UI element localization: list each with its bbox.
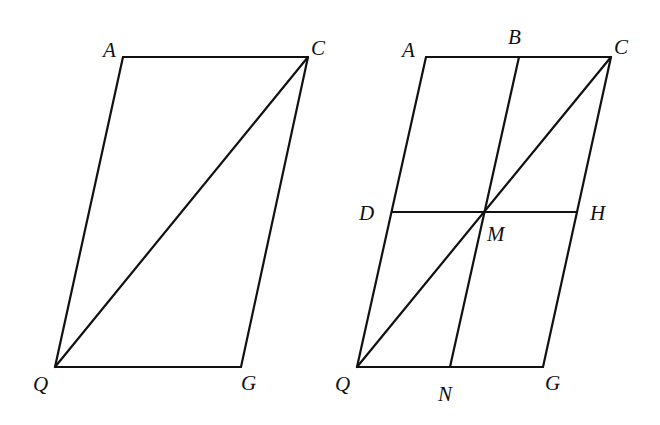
left-label-C: C	[311, 38, 325, 59]
left-segment-AQ	[55, 57, 123, 367]
left-label-A: A	[103, 40, 116, 61]
left-figure	[55, 57, 308, 367]
left-segment-CG	[241, 57, 308, 367]
right-label-N: N	[438, 384, 452, 405]
geometry-diagram: A C Q G A B C D M H Q N G	[0, 0, 660, 425]
right-label-D: D	[359, 203, 374, 224]
right-label-Q: Q	[335, 374, 350, 395]
left-label-Q: Q	[33, 374, 48, 395]
right-label-A: A	[402, 40, 415, 61]
diagram-lines	[0, 0, 660, 425]
left-diagonal-QC	[55, 57, 308, 367]
right-label-C: C	[614, 37, 628, 58]
right-figure	[357, 57, 611, 367]
right-label-G: G	[545, 373, 560, 394]
right-label-B: B	[508, 27, 521, 48]
right-label-M: M	[487, 224, 505, 245]
right-label-H: H	[590, 203, 605, 224]
left-label-G: G	[241, 373, 256, 394]
